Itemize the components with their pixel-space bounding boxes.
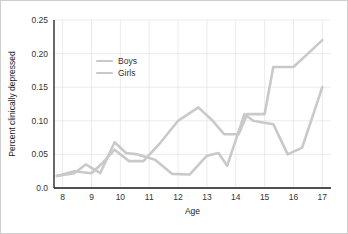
x-axis-tick-labels: 891011121314151617 (60, 192, 327, 202)
x-tick-label: 15 (260, 192, 270, 202)
legend-label-boys: Boys (118, 56, 137, 66)
x-tick-label: 11 (145, 192, 154, 202)
x-tick-label: 13 (202, 192, 212, 202)
x-axis-title: Age (185, 206, 200, 216)
y-tick-label: 0.0 (36, 183, 48, 193)
gridlines (54, 20, 331, 188)
axis-spines (54, 20, 331, 188)
legend-label-girls: Girls (118, 68, 135, 78)
x-tick-label: 10 (116, 192, 126, 202)
y-tick-label: 0.10 (31, 116, 48, 126)
x-tick-label: 16 (289, 192, 299, 202)
chart-legend: BoysGirls (97, 56, 137, 78)
y-tick-label: 0.15 (31, 82, 48, 92)
x-tick-label: 14 (231, 192, 241, 202)
chart-figure: 891011121314151617 0.00.050.100.150.200.… (0, 0, 348, 234)
y-tick-label: 0.05 (31, 149, 48, 159)
plot-stage: 891011121314151617 0.00.050.100.150.200.… (1, 1, 348, 234)
y-axis-tick-labels: 0.00.050.100.150.200.25 (31, 15, 48, 193)
y-tick-label: 0.20 (31, 49, 48, 59)
x-tick-label: 17 (318, 192, 328, 202)
series-line-boys (57, 87, 322, 176)
y-tick-label: 0.25 (31, 15, 48, 25)
x-tick-label: 9 (89, 192, 94, 202)
y-axis-title: Percent clinically depressed (7, 51, 17, 157)
x-tick-label: 8 (60, 192, 65, 202)
line-chart: 891011121314151617 0.00.050.100.150.200.… (1, 1, 348, 234)
x-tick-label: 12 (173, 192, 183, 202)
